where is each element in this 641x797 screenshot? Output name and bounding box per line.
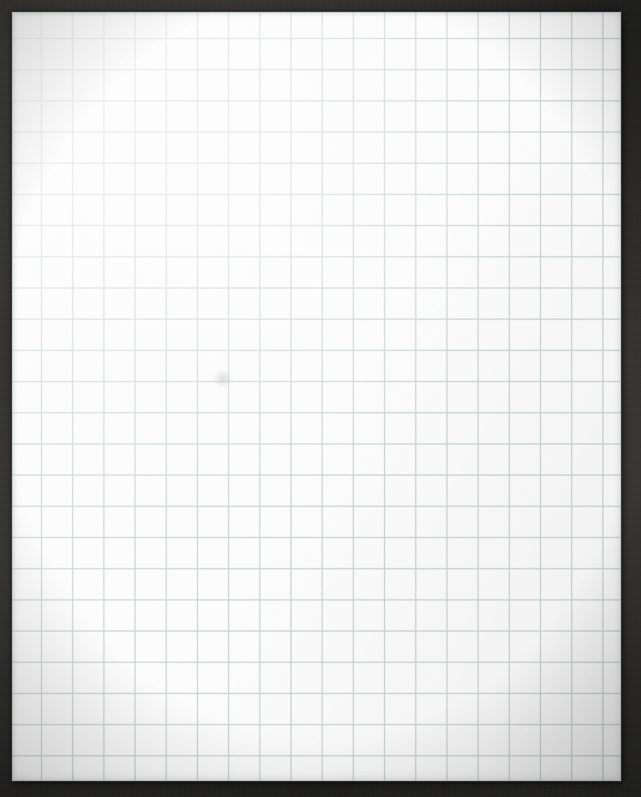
graph-paper-photo-scene — [0, 0, 641, 797]
paper-fibre-grain — [12, 12, 621, 781]
paper-written-content — [12, 12, 621, 781]
graph-paper-sheet — [12, 12, 621, 781]
paper-smudge-blemish — [214, 371, 232, 387]
paper-lighting-gradient — [12, 12, 621, 781]
grid-lines-soft-pass — [12, 12, 621, 781]
grid-lines — [12, 12, 621, 781]
paper-edge-shading — [12, 12, 621, 781]
